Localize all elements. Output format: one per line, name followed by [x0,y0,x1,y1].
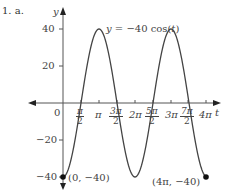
start-point-label: (0, −40) [68,173,110,183]
x-tick-label: π [95,110,102,120]
x-axis-label: t [215,108,219,118]
x-tick-label: 5π2 [145,107,159,126]
x-tick-label: 4π [199,110,212,120]
y-tick-label: 20 [42,61,55,71]
y-tick-label: −20 [36,135,57,145]
x-tick-label: 7π2 [180,107,194,126]
y-tick-label: 40 [42,24,55,34]
end-point-label: (4π, −40) [152,177,200,187]
y-axis-arrow-down-icon [60,183,66,190]
y-axis-arrow-up-icon [60,7,66,15]
x-axis-arrow-right-icon [213,100,221,106]
function-label: y = −40 cos(t) [106,24,179,34]
x-tick-label: π2 [76,107,84,126]
x-tick-label: 3π2 [109,107,123,126]
y-tick-label: −40 [36,172,57,182]
y-axis-label: y [53,7,59,17]
x-axis-arrow-left-icon [28,100,36,106]
x-tick-label: 2π [129,110,142,120]
end-point [203,174,209,180]
x-tick-label: 3π [165,110,178,120]
start-point [60,174,66,180]
origin-label: 0 [54,108,60,118]
